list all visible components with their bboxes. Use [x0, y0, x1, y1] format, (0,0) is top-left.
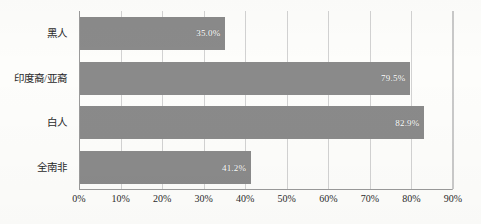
bar: 79.5% [80, 62, 410, 95]
category-label: 黑人 [0, 17, 73, 50]
category-label: 全南非 [0, 151, 73, 184]
bar: 82.9% [80, 106, 424, 139]
category-label: 印度裔/亚裔 [0, 62, 73, 95]
plot-area: 35.0%79.5%82.9%41.2% [79, 11, 453, 190]
x-tick-label: 70% [361, 193, 379, 204]
x-tick-label: 60% [319, 193, 337, 204]
bar-row: 35.0% [80, 17, 454, 50]
category-axis-labels: 黑人印度裔/亚裔白人全南非 [0, 11, 73, 190]
x-tick-label: 40% [236, 193, 254, 204]
bar-row: 82.9% [80, 106, 454, 139]
x-tick-label: 50% [278, 193, 296, 204]
x-axis-tick-labels: 0%10%20%30%40%50%60%70%80%90% [0, 193, 481, 213]
bar: 41.2% [80, 151, 251, 184]
x-tick-label: 20% [153, 193, 171, 204]
bar-row: 79.5% [80, 62, 454, 95]
bar-value-label: 82.9% [395, 118, 419, 128]
bar-value-label: 41.2% [222, 163, 246, 173]
bar-value-label: 35.0% [196, 28, 220, 38]
category-label: 白人 [0, 106, 73, 139]
x-tick-label: 30% [194, 193, 212, 204]
bar-row: 41.2% [80, 151, 454, 184]
chart-page: 黑人印度裔/亚裔白人全南非 35.0%79.5%82.9%41.2% 0%10%… [0, 0, 481, 224]
x-tick-label: 90% [444, 193, 462, 204]
bar: 35.0% [80, 17, 225, 50]
x-tick-label: 80% [402, 193, 420, 204]
x-tick-label: 10% [111, 193, 129, 204]
x-tick-label: 0% [72, 193, 85, 204]
bar-value-label: 79.5% [381, 73, 405, 83]
